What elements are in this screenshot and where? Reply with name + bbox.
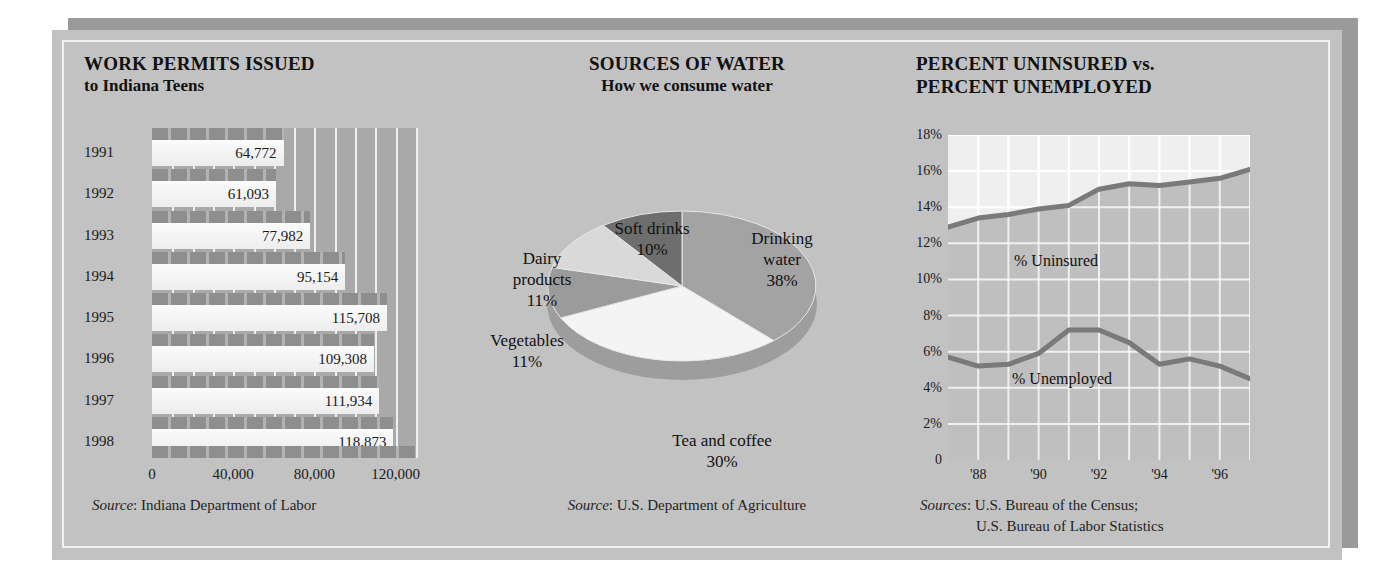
bar-row: 77,982	[152, 211, 416, 252]
bar-x-tick-label: 0	[148, 466, 156, 483]
bar-value-label: 77,982	[152, 223, 310, 249]
pie-chart-title: SOURCES OF WATER	[472, 52, 902, 75]
line-y-tick-label: 14%	[916, 199, 942, 215]
bar-value-label: 95,154	[152, 264, 345, 290]
pie-chart-subtitle: How we consume water	[472, 75, 902, 97]
line-y-tick-label: 2%	[923, 416, 942, 432]
line-x-tick-label: '92	[1091, 467, 1108, 483]
infographic-canvas: WORK PERMITS ISSUED to Indiana Teens 199…	[0, 0, 1392, 578]
bar-row: 95,154	[152, 252, 416, 293]
pie-slice-value: 11%	[492, 290, 592, 311]
bar-top-cap	[152, 293, 387, 305]
bar-row: 109,308	[152, 334, 416, 375]
bar-plot-area: 64,77261,09377,98295,154115,708109,30811…	[152, 128, 418, 458]
line-chart-heading: PERCENT UNINSURED vs. PERCENT UNEMPLOYED	[916, 52, 1155, 98]
bar-source-text: : Indiana Department of Labor	[133, 497, 316, 513]
line-source-label: Sources	[920, 497, 967, 513]
line-series-label: % Unemployed	[1012, 370, 1112, 388]
bar-value-label: 64,772	[152, 140, 284, 166]
bar-value-label: 111,934	[152, 388, 379, 414]
bar-value-label: 61,093	[152, 181, 276, 207]
bar-top-cap	[152, 128, 284, 140]
pie-slice-name: Drinkingwater	[722, 228, 842, 270]
bar-value-label: 115,708	[152, 305, 387, 331]
panel-uninsured-unemployed: PERCENT UNINSURED vs. PERCENT UNEMPLOYED…	[902, 40, 1330, 540]
line-chart-title-1: PERCENT UNINSURED vs.	[916, 52, 1155, 75]
bar-row: 115,708	[152, 293, 416, 334]
bar-row: 61,093	[152, 169, 416, 210]
pie-slice-name: Dairyproducts	[492, 248, 592, 290]
line-x-tick-label: '88	[970, 467, 987, 483]
bar-top-cap	[152, 417, 393, 429]
bar-top-cap	[152, 334, 374, 346]
line-x-tick-label: '96	[1212, 467, 1229, 483]
line-y-tick-label: 16%	[916, 163, 942, 179]
pie-slice-value: 11%	[462, 351, 592, 372]
panel-sources-of-water: SOURCES OF WATER How we consume water Dr…	[472, 40, 902, 540]
pie-slice-label: Vegetables11%	[462, 330, 592, 372]
panel-work-permits: WORK PERMITS ISSUED to Indiana Teens 199…	[62, 40, 472, 540]
pie-slice-label: Tea and coffee30%	[632, 430, 812, 472]
pie-slice-value: 30%	[632, 451, 812, 472]
line-source-text: : U.S. Bureau of the Census;	[967, 497, 1138, 513]
line-chart-title-2: PERCENT UNEMPLOYED	[916, 75, 1155, 98]
line-y-tick-label: 18%	[916, 127, 942, 143]
bar-x-tick-label: 40,000	[213, 466, 254, 483]
pie-slice-value: 38%	[722, 270, 842, 291]
bar-x-tick-label: 80,000	[294, 466, 335, 483]
bar-chart-title: WORK PERMITS ISSUED	[84, 52, 315, 75]
bar-source-label: Source	[92, 497, 133, 513]
pie-chart-heading: SOURCES OF WATER How we consume water	[472, 52, 902, 97]
bar-source-note: Source: Indiana Department of Labor	[92, 495, 452, 516]
bar-x-tick-label: 120,000	[371, 466, 420, 483]
bar-top-cap	[152, 211, 310, 223]
line-x-tick-label: '90	[1030, 467, 1047, 483]
bar-top-cap	[152, 252, 345, 264]
pie-slice-value: 10%	[592, 239, 712, 260]
pie-slice-name: Tea and coffee	[632, 430, 812, 451]
pie-slice-label: Dairyproducts11%	[492, 248, 592, 311]
line-source-row-2: U.S. Bureau of Labor Statistics	[920, 516, 1320, 537]
line-y-tick-label: 6%	[923, 344, 942, 360]
bar-chart-subtitle: to Indiana Teens	[84, 75, 315, 97]
line-y-tick-label: 12%	[916, 235, 942, 251]
bar-value-label: 109,308	[152, 346, 374, 372]
pie-source-note: Source: U.S. Department of Agriculture	[472, 495, 902, 516]
line-source-note: Sources: U.S. Bureau of the Census; U.S.…	[920, 495, 1320, 537]
pie-source-label: Source	[568, 497, 609, 513]
bar-row: 64,772	[152, 128, 416, 169]
bar-top-cap	[152, 169, 276, 181]
bar-axis-cap	[152, 446, 416, 458]
line-plot-area	[948, 135, 1250, 460]
pie-source-text: : U.S. Department of Agriculture	[609, 497, 806, 513]
line-source-row-1: Sources: U.S. Bureau of the Census;	[920, 495, 1320, 516]
line-series-label: % Uninsured	[1014, 252, 1098, 270]
pie-slice-name: Vegetables	[462, 330, 592, 351]
bar-chart-heading: WORK PERMITS ISSUED to Indiana Teens	[84, 52, 315, 97]
pie-slice-name: Soft drinks	[592, 218, 712, 239]
pie-slice-label: Drinkingwater38%	[722, 228, 842, 291]
line-y-tick-label: 4%	[923, 380, 942, 396]
line-y-tick-label: 10%	[916, 271, 942, 287]
pie-slice-label: Soft drinks10%	[592, 218, 712, 260]
line-x-tick-label: '94	[1151, 467, 1168, 483]
bar-top-cap	[152, 376, 379, 388]
line-y-tick-label: 0	[935, 452, 942, 468]
line-y-tick-label: 8%	[923, 308, 942, 324]
bar-row: 111,934	[152, 376, 416, 417]
